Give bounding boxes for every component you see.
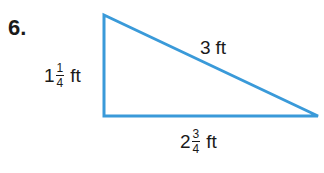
hypotenuse-value: 3 [200, 38, 211, 57]
whole-part: 1 [44, 66, 55, 85]
horizontal-side-label: 2 3 4 ft [180, 128, 217, 155]
vertical-side-label: 1 1 4 ft [44, 62, 81, 89]
denominator: 4 [193, 142, 200, 155]
mixed-number: 2 3 4 [180, 128, 201, 155]
mixed-number: 1 1 4 [44, 62, 65, 89]
unit: ft [216, 38, 227, 57]
triangle-shape [104, 15, 318, 116]
whole-part: 2 [180, 132, 191, 151]
unit: ft [70, 66, 81, 85]
fraction: 1 4 [56, 62, 65, 89]
unit: ft [206, 132, 217, 151]
fraction: 3 4 [192, 128, 201, 155]
hypotenuse-label: 3 ft [200, 38, 226, 57]
denominator: 4 [57, 76, 64, 89]
numerator: 1 [56, 62, 65, 76]
numerator: 3 [192, 128, 201, 142]
